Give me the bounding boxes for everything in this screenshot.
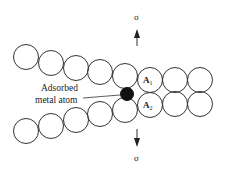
- atom: [88, 60, 113, 85]
- atom: [14, 45, 39, 70]
- stress-label-top: σ: [134, 12, 139, 22]
- atom: [163, 68, 188, 93]
- atom: [14, 119, 39, 144]
- atom: [64, 56, 89, 81]
- atom: [113, 98, 138, 123]
- atom: [39, 51, 64, 76]
- arrow-down-icon: [134, 129, 140, 147]
- adsorbed-label-line1: Adsorbed: [41, 83, 78, 93]
- adsorbed-metal-atom: [121, 88, 134, 101]
- atom: [188, 92, 213, 117]
- atom: [88, 102, 113, 127]
- atom-a2-label: A2: [143, 100, 153, 111]
- stress-label-bottom: σ: [134, 153, 139, 163]
- arrow-up-icon: [134, 29, 140, 46]
- atom: [64, 108, 89, 133]
- adsorbed-label-line2: metal atom: [35, 95, 78, 105]
- crack-tip-diagram: Adsorbed metal atom A1 A2 σ σ: [0, 0, 225, 172]
- atom: [113, 64, 138, 89]
- atom-a1-label: A1: [143, 75, 153, 86]
- leader-line: [83, 95, 120, 98]
- atom: [163, 92, 188, 117]
- atom: [188, 68, 213, 93]
- atom: [39, 114, 64, 139]
